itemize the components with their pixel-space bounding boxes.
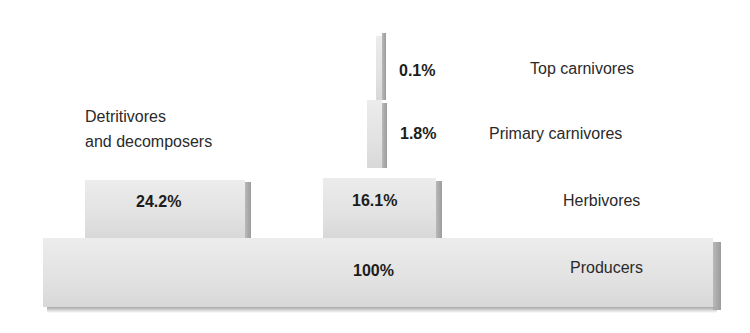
primary-carnivores-block	[367, 100, 382, 168]
herbivores-percent: 16.1%	[352, 192, 397, 210]
detritivores-label-line1: Detritivores	[85, 108, 166, 126]
primary-carnivores-block-side	[382, 103, 387, 168]
top-carnivores-block-side	[382, 33, 386, 100]
producers-block-side	[713, 242, 721, 310]
detritivores-percent: 24.2%	[136, 193, 181, 211]
top-carnivores-percent: 0.1%	[399, 62, 435, 80]
detritivores-label-line2: and decomposers	[85, 133, 212, 151]
primary-carnivores-percent: 1.8%	[400, 125, 436, 143]
top-carnivores-label: Top carnivores	[530, 60, 634, 78]
herbivores-label: Herbivores	[563, 192, 640, 210]
herbivores-block-side	[436, 181, 442, 238]
producers-percent: 100%	[353, 262, 394, 280]
detritivores-block-side	[245, 182, 251, 238]
producers-label: Producers	[570, 259, 643, 277]
producers-block-shadow	[47, 307, 717, 313]
primary-carnivores-label: Primary carnivores	[489, 125, 622, 143]
